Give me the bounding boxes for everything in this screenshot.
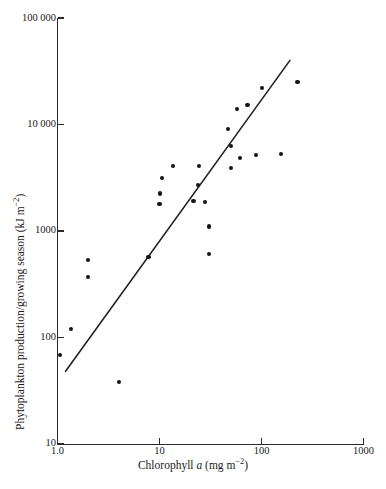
x-axis-title-tail: ) [244,459,248,471]
scatter-point [235,107,239,111]
scatter-point [279,152,283,156]
x-tick-label: 1.0 [28,446,88,457]
scatter-point [160,176,164,180]
scatter-point [207,224,211,228]
y-tick-mark [58,124,64,125]
y-axis-title-exponent: −2 [12,198,21,207]
x-axis-title-exponent: −2 [235,457,244,466]
y-tick-label: 10 000 [27,119,56,130]
scatter-point [146,255,150,259]
scatter-point [229,166,233,170]
y-tick-label: 1000 [35,225,56,236]
y-tick-label: 100 [40,332,56,343]
x-tick-mark [57,438,58,444]
scatter-point [86,258,90,262]
x-tick-label: 10 [130,446,190,457]
scatter-point [157,202,161,206]
top-caption-sliver [52,0,352,4]
scatter-point [117,380,121,384]
y-tick-mark [58,230,64,231]
y-axis-title: Phytoplankton production/growing season … [14,194,26,430]
scatter-point [245,103,249,107]
y-axis-title-pre: Phytoplankton production/growing season … [14,206,26,430]
x-axis-line [57,444,364,445]
scatter-point [295,80,299,84]
scatter-point [196,183,200,187]
y-tick-label: 100 000 [22,13,56,24]
y-tick-mark [58,17,64,18]
bottom-caption-sliver [8,482,380,489]
x-axis-title-post: (mg m [202,459,235,471]
x-tick-label: 100 [232,446,292,457]
x-axis-title: Chlorophyll a (mg m−2) [0,459,386,471]
scatter-point [197,164,201,168]
regression-trend-line [66,60,290,371]
scatter-point [229,144,233,148]
x-axis-title-pre: Chlorophyll [138,459,196,471]
scatter-point [158,191,162,195]
x-tick-mark [159,438,160,444]
x-tick-mark [363,438,364,444]
x-tick-mark [261,438,262,444]
y-axis-title-tail: ) [14,194,26,198]
figure-scatter-chlorophyll-production: 10100100010 000100 0001.0101001000 Chlor… [0,0,386,489]
scatter-point [238,156,242,160]
scatter-point [203,200,207,204]
scatter-point [254,153,258,157]
scatter-point [260,86,264,90]
scatter-point [207,252,211,256]
x-tick-label: 1000 [334,446,386,457]
y-tick-mark [58,337,64,338]
scatter-point [69,327,73,331]
scatter-point [171,164,175,168]
scatter-point [86,275,90,279]
scatter-point [191,199,195,203]
scatter-point [226,127,230,131]
